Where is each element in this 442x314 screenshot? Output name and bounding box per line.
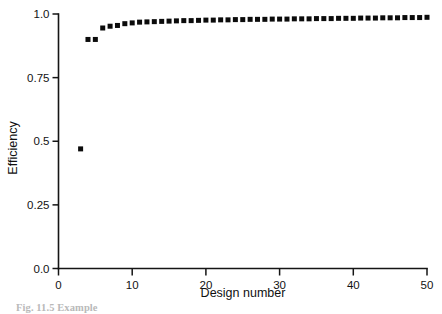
- y-tick-label: 1.0: [34, 8, 50, 20]
- data-point: [203, 18, 208, 23]
- y-axis-title: Efficiency: [6, 121, 20, 175]
- data-point: [292, 16, 297, 21]
- data-point: [174, 18, 179, 23]
- data-point: [248, 17, 253, 22]
- y-axis-ticks: 0.00.250.50.751.0: [27, 8, 58, 275]
- data-point: [189, 18, 194, 23]
- data-point: [137, 20, 142, 25]
- x-axis-title: Design number: [201, 286, 286, 300]
- x-tick-label: 0: [55, 279, 61, 291]
- data-point: [159, 19, 164, 24]
- data-point: [226, 17, 231, 22]
- y-tick-label: 0.5: [34, 135, 50, 147]
- data-point: [343, 16, 348, 21]
- data-point: [277, 17, 282, 22]
- data-point: [380, 15, 385, 20]
- data-point: [425, 15, 430, 20]
- axes-group: [59, 14, 428, 269]
- data-point: [85, 37, 90, 42]
- data-point: [181, 18, 186, 23]
- data-point: [108, 24, 113, 29]
- data-point: [93, 37, 98, 42]
- y-tick-label: 0.75: [27, 72, 49, 84]
- data-point: [144, 19, 149, 24]
- data-point: [366, 16, 371, 21]
- data-point: [307, 16, 312, 21]
- data-point: [240, 17, 245, 22]
- data-point: [211, 18, 216, 23]
- x-tick-label: 10: [126, 279, 139, 291]
- data-point: [417, 15, 422, 20]
- x-tick-label: 50: [421, 279, 434, 291]
- x-tick-label: 40: [347, 279, 360, 291]
- data-point: [336, 16, 341, 21]
- data-point: [270, 17, 275, 22]
- data-point: [152, 19, 157, 24]
- data-point: [314, 16, 319, 21]
- data-point: [299, 16, 304, 21]
- data-point: [395, 15, 400, 20]
- data-point: [100, 25, 105, 30]
- data-point: [262, 17, 267, 22]
- data-point: [373, 16, 378, 21]
- data-point: [255, 17, 260, 22]
- data-point: [218, 17, 223, 22]
- data-point: [167, 19, 172, 24]
- data-point: [78, 146, 83, 151]
- data-point: [130, 20, 135, 25]
- figure-caption: Fig. 11.5 Example: [16, 302, 436, 314]
- data-point: [233, 17, 238, 22]
- data-point: [388, 15, 393, 20]
- y-tick-label: 0.25: [27, 199, 49, 211]
- data-point: [402, 15, 407, 20]
- y-tick-label: 0.0: [34, 263, 50, 275]
- data-point: [358, 16, 363, 21]
- data-point: [351, 16, 356, 21]
- data-point: [115, 23, 120, 28]
- data-point: [284, 17, 289, 22]
- data-point: [329, 16, 334, 21]
- data-point: [410, 15, 415, 20]
- data-point-series: [78, 15, 429, 152]
- data-point: [196, 18, 201, 23]
- data-point: [321, 16, 326, 21]
- data-point: [122, 21, 127, 26]
